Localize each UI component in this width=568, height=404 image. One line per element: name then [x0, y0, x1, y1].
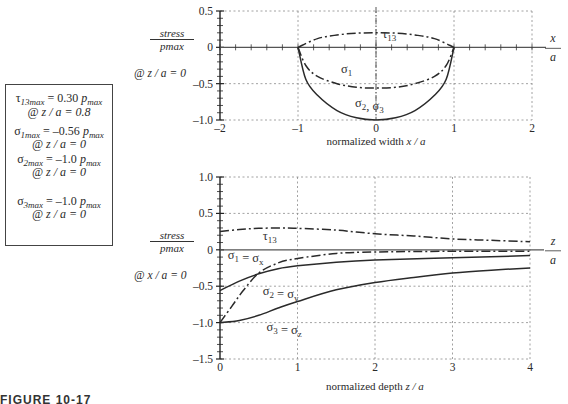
max-stress-summary-box-lower: σ3max = –1.0 pmax @ z / a = 0 [5, 187, 113, 246]
series-label: σ3 = σz [267, 320, 302, 339]
x-tick-label: 0 [217, 361, 223, 373]
series-label: σ2 = σy [263, 284, 299, 303]
series-label: σ1 [341, 62, 352, 78]
x-axis-label: normalized depth z / a [326, 380, 424, 392]
tau13-location: @ z / a = 0.8 [6, 106, 112, 119]
svg-text:a: a [550, 253, 556, 267]
svg-text:a: a [550, 50, 556, 64]
top-y-label: stress pmax [150, 27, 194, 52]
series-label: τ13 [382, 27, 397, 43]
y-tick-label: 0 [207, 41, 213, 53]
y-tick-label: 0.5 [199, 5, 214, 17]
x-tick-label: 3 [450, 361, 456, 373]
y-tick-label: –0.5 [192, 280, 213, 292]
series-label: σ2, σ3 [355, 96, 384, 115]
x-tick-label: 2 [372, 361, 378, 373]
svg-text:x: x [549, 31, 556, 45]
top-chart: τ13σ1σ2, σ3normalized width x / a [216, 7, 561, 147]
bottom-y-label: stress pmax [150, 229, 194, 254]
sigma2-location: @ z / a = 0 [6, 166, 112, 179]
y-tick-label: –1.5 [192, 353, 213, 365]
y-tick-label: –0.5 [192, 78, 213, 90]
x-tick-label: 1 [451, 122, 457, 134]
y-tick-label: 0 [207, 244, 213, 256]
top-y-location: @ z / a = 0 [134, 67, 186, 79]
figure-caption: FIGURE 10-17 [0, 393, 91, 404]
y-tick-label: 1.0 [199, 171, 214, 183]
x-tick-label: 4 [527, 361, 533, 373]
y-tick-label: –1.0 [192, 317, 213, 329]
y-tick-label: 0.5 [199, 207, 214, 219]
svg-text:z: z [550, 234, 556, 248]
bottom-chart: τ13σ1 = σxσ2 = σyσ3 = σznormalized depth… [216, 177, 561, 392]
x-tick-label: 1 [295, 361, 301, 373]
x-tick-label: 0 [373, 122, 379, 134]
x-tick-label: –1 [291, 122, 304, 134]
sigma3-location: @ z / a = 0 [6, 208, 112, 221]
x-axis-label: normalized width x / a [327, 135, 426, 147]
series-label: σ1 = σx [228, 248, 264, 267]
sigma1-location: @ z / a = 0 [6, 138, 112, 151]
y-tick-label: –1.0 [192, 114, 213, 126]
max-stress-summary-box: τ13max = 0.30 pmax @ z / a = 0.8 σ1max =… [5, 84, 113, 189]
x-tick-label: 2 [529, 122, 535, 134]
series-label: τ13 [263, 229, 278, 245]
x-tick-label: –2 [213, 122, 226, 134]
bottom-y-location: @ x / a = 0 [134, 269, 187, 281]
